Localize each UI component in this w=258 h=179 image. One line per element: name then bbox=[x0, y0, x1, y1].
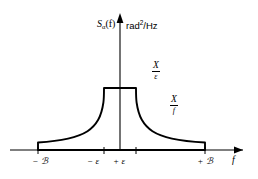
y-axis-quantity-label: Sα(f) bbox=[97, 19, 115, 31]
x-axis-arrowhead bbox=[234, 147, 243, 154]
x-tick-label-pos-epsilon: + ε bbox=[106, 156, 132, 166]
tail-denominator: f bbox=[170, 107, 178, 115]
plateau-denominator: ε bbox=[152, 73, 160, 81]
y-units-denominator: /Hz bbox=[143, 20, 157, 31]
plateau-numerator: X bbox=[152, 61, 160, 71]
y-quantity-argument: (f) bbox=[105, 18, 115, 29]
x-axis-label: f bbox=[232, 155, 235, 165]
x-tick-label-neg-bandwidth: − ℬ bbox=[23, 156, 57, 166]
plateau-level-annotation: X ε bbox=[152, 61, 160, 81]
x-tick-label-pos-bandwidth: + ℬ bbox=[188, 156, 222, 166]
y-axis-units-label: rad2/Hz bbox=[126, 20, 158, 31]
x-tick-label-neg-epsilon: − ε bbox=[80, 156, 106, 166]
tail-level-annotation: X f bbox=[170, 95, 178, 115]
psd-curve bbox=[38, 88, 205, 150]
tail-numerator: X bbox=[170, 95, 178, 105]
y-axis-arrowhead bbox=[117, 13, 124, 23]
psd-figure: Sα(f) rad2/Hz X ε X f − ℬ − ε + ε + ℬ f bbox=[0, 0, 258, 179]
y-units-base: rad bbox=[126, 20, 140, 31]
